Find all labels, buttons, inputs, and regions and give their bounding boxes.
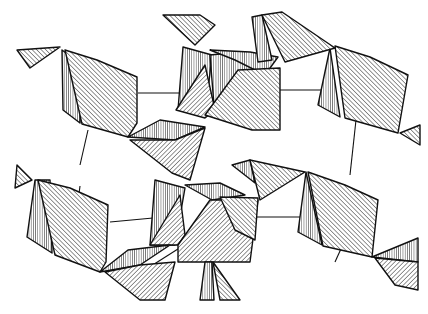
octa-center-bottom xyxy=(150,160,305,262)
octa-top-left xyxy=(17,47,137,137)
polyhedron-face xyxy=(262,12,335,62)
polyhedron-face xyxy=(38,180,108,272)
crystal-structure-figure xyxy=(0,0,428,314)
polyhedron-face xyxy=(17,47,60,68)
link-line xyxy=(110,218,153,222)
polyhedron-face xyxy=(250,160,305,200)
bridge-left-mid xyxy=(128,120,205,180)
polyhedra-drawing xyxy=(0,0,428,314)
polyhedron-face xyxy=(163,15,215,45)
polyhedra-group xyxy=(15,12,420,300)
polyhedron-face xyxy=(200,262,214,300)
polyhedron-face xyxy=(308,172,378,257)
link-line xyxy=(350,120,356,175)
bridge-left-bottom xyxy=(100,245,175,300)
polyhedron-face xyxy=(375,258,418,290)
octa-mid-left xyxy=(15,165,108,272)
polyhedron-face xyxy=(400,125,420,145)
octa-center-top xyxy=(163,12,335,130)
octa-top-right xyxy=(318,46,420,145)
polyhedron-face xyxy=(65,50,137,137)
polyhedron-face xyxy=(335,46,408,133)
polyhedron-face xyxy=(213,262,240,300)
polyhedron-face xyxy=(15,165,32,188)
octa-mid-right xyxy=(298,172,378,257)
link-line xyxy=(80,130,88,165)
